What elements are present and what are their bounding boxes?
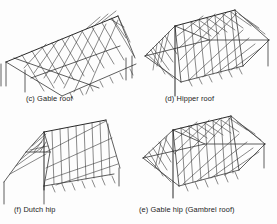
- caption-gable-hip-gambrel: (e) Gable hip (Gambrel roof): [139, 206, 235, 213]
- roof-types-figure: (c) Gable roof (d) Hipper roof (f) Dutch…: [0, 0, 277, 224]
- gable-roof-frame: [1, 11, 136, 99]
- caption-gable-roof: (c) Gable roof: [26, 95, 73, 102]
- gambrel-roof-frame: [143, 116, 265, 198]
- dutch-hip-frame: [4, 120, 120, 204]
- caption-dutch-hip: (f) Dutch hip: [14, 206, 56, 213]
- caption-hipper-roof: (d) Hipper roof: [165, 95, 214, 102]
- hipper-roof-frame: [145, 10, 269, 96]
